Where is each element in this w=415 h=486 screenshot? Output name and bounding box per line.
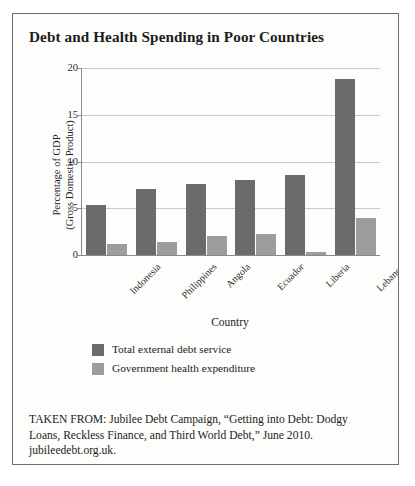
bar-group — [335, 68, 376, 255]
source-note: TAKEN FROM: Jubilee Debt Campaign, “Gett… — [29, 412, 381, 459]
bar — [157, 242, 177, 255]
bar-group — [186, 68, 227, 255]
x-axis-tick-label: Ecuador — [275, 261, 306, 292]
legend-label-health-expenditure: Government health expenditure — [112, 363, 255, 374]
x-axis-tick-label: Lebanon — [374, 261, 399, 294]
bar-group — [136, 68, 177, 255]
legend-item-0: Total external debt service — [92, 344, 255, 356]
x-axis-tick-label: Angola — [224, 261, 253, 290]
bar-group — [86, 68, 127, 255]
y-axis-tick-label: 5 — [38, 203, 78, 214]
plot-area: 05101520 — [81, 68, 380, 256]
y-axis-tick-mark — [78, 68, 82, 69]
bar — [136, 189, 156, 255]
x-axis-tick-label: Indonesia — [127, 261, 162, 296]
bar — [86, 205, 106, 255]
figure-title: Debt and Health Spending in Poor Countri… — [29, 28, 324, 46]
y-axis-title-line1: Percentage of GDP — [50, 80, 63, 270]
y-axis-tick-label: 0 — [38, 250, 78, 261]
y-axis-tick-mark — [78, 162, 82, 163]
bar — [186, 184, 206, 255]
legend-label-debt-service: Total external debt service — [112, 344, 231, 355]
bar-group — [285, 68, 326, 255]
bar — [256, 234, 276, 256]
bar — [285, 175, 305, 255]
bar — [356, 218, 376, 255]
bar — [207, 236, 227, 255]
x-axis-tick-label: Liberia — [323, 261, 351, 289]
y-axis-tick-mark — [78, 208, 82, 209]
bar — [306, 252, 326, 255]
bar — [235, 180, 255, 255]
legend-swatch-health-expenditure — [92, 363, 104, 375]
y-axis-tick-label: 20 — [38, 63, 78, 74]
legend-swatch-debt-service — [92, 344, 104, 356]
bar-chart: Percentage of GDP (Gross Domestic Produc… — [13, 54, 399, 344]
x-axis-title: Country — [81, 316, 379, 328]
x-axis-tick-label: Philippines — [179, 261, 219, 301]
y-axis-tick-label: 10 — [38, 156, 78, 167]
y-axis-tick-mark — [78, 255, 82, 256]
bar — [107, 244, 127, 255]
y-axis-tick-label: 15 — [38, 110, 78, 121]
y-axis-tick-mark — [78, 115, 82, 116]
legend-item-1: Government health expenditure — [92, 363, 255, 375]
figure-panel: Debt and Health Spending in Poor Countri… — [12, 13, 399, 465]
bar — [335, 79, 355, 255]
bar-group — [235, 68, 276, 255]
chart-legend: Total external debt service Government h… — [92, 344, 255, 382]
